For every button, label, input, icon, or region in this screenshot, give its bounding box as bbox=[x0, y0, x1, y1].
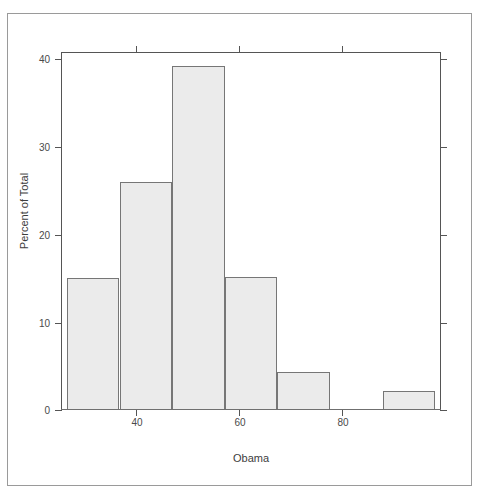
y-tick-0: 0 bbox=[55, 410, 62, 411]
histogram-bar bbox=[67, 278, 120, 411]
y-tick-right-30 bbox=[440, 147, 447, 148]
histogram-bar bbox=[120, 182, 173, 410]
y-tick-label-20: 20 bbox=[39, 231, 50, 241]
y-tick-right-20 bbox=[440, 235, 447, 236]
y-tick-right-0 bbox=[440, 410, 447, 411]
y-axis-label: Percent of Total bbox=[18, 151, 30, 271]
x-tick-60: 60 bbox=[239, 409, 240, 416]
histogram-figure: Percent of Total Obama 40 30 20 10 0 40 … bbox=[0, 0, 485, 499]
x-tick-label-80: 80 bbox=[337, 418, 348, 428]
x-tick-label-60: 60 bbox=[234, 418, 245, 428]
y-tick-label-40: 40 bbox=[39, 55, 50, 65]
histogram-bar bbox=[172, 66, 225, 410]
baseline-zero-rule bbox=[61, 409, 441, 410]
x-tick-80: 80 bbox=[342, 409, 343, 416]
histogram-bar bbox=[383, 391, 436, 410]
y-tick-label-0: 0 bbox=[44, 406, 50, 416]
histogram-bar bbox=[225, 277, 278, 410]
y-tick-right-40 bbox=[440, 59, 447, 60]
y-tick-label-30: 30 bbox=[39, 143, 50, 153]
x-axis-label: Obama bbox=[61, 452, 441, 464]
bars-container bbox=[61, 52, 441, 410]
histogram-bar bbox=[277, 372, 330, 411]
y-tick-right-10 bbox=[440, 323, 447, 324]
x-tick-40: 40 bbox=[136, 409, 137, 416]
y-tick-label-10: 10 bbox=[39, 319, 50, 329]
x-tick-label-40: 40 bbox=[131, 418, 142, 428]
